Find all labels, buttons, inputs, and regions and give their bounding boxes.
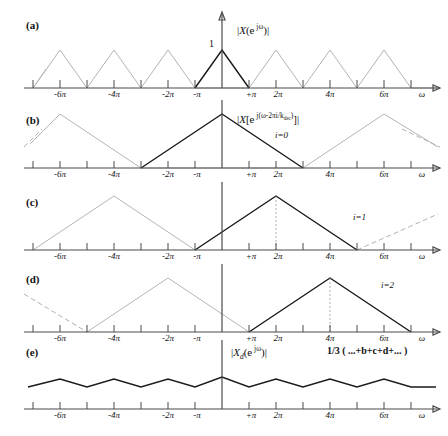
tick-label-a-6: 4π — [325, 89, 334, 99]
tick-label-b-1: -4π — [108, 169, 120, 179]
tick-label-c-2: -2π — [162, 251, 174, 261]
tick-label-e-0: -6π — [54, 410, 66, 420]
axis-symbol-c: ω — [419, 251, 425, 261]
panel-d: (d) i=2 -6π -4π -2π -π +π 2π 4π 6 — [0, 264, 448, 346]
tick-label-d-3: -π — [193, 333, 201, 343]
tick-label-b-4: +π — [246, 169, 257, 179]
tick-label-c-6: 4π — [325, 251, 334, 261]
panel-e-ripple-curve — [28, 377, 436, 387]
panel-a-ghost-edge-left — [33, 69, 46, 88]
tick-label-e-4: +π — [246, 410, 257, 420]
tick-label-a-4: +π — [246, 89, 257, 99]
tick-label-e-2: -2π — [162, 410, 174, 420]
panel-e: (e) |Xd(e jω)| 1/3 ( ...+b+c+d+... ) -6π… — [0, 346, 448, 436]
tick-label-d-1: -4π — [108, 333, 120, 343]
tick-label-e-3: -π — [193, 410, 201, 420]
axis-symbol-e: ω — [419, 410, 425, 420]
tick-label-d-4: +π — [246, 333, 257, 343]
tick-label-a-3: -π — [193, 89, 201, 99]
tick-label-e-1: -4π — [108, 410, 120, 420]
tick-label-d-2: -2π — [162, 333, 174, 343]
tick-label-e-5: 2π — [273, 410, 282, 420]
panel-b: (b) |X[e j(ω-2πi/kdec)]| i=0 -6π -4 — [0, 100, 448, 182]
panel-a-plot — [0, 0, 448, 100]
tick-label-a-2: -2π — [162, 89, 174, 99]
tick-label-e-6: 4π — [325, 410, 334, 420]
tick-label-a-0: -6π — [54, 89, 66, 99]
tick-label-d-7: 6π — [379, 333, 388, 343]
tick-label-c-4: +π — [246, 251, 257, 261]
tick-label-d-5: 2π — [273, 333, 282, 343]
tick-label-d-0: -6π — [54, 333, 66, 343]
panel-c: (c) i=1 -6π -4π -2π -π +π 2π 4π 6 — [0, 182, 448, 264]
tick-label-c-7: 6π — [379, 251, 388, 261]
tick-label-c-5: 2π — [273, 251, 282, 261]
tick-label-d-6: 4π — [325, 333, 334, 343]
tick-label-a-7: 6π — [379, 89, 388, 99]
panel-b-dash-right — [402, 129, 440, 147]
axis-symbol-a: ω — [419, 89, 425, 99]
tick-label-c-0: -6π — [54, 251, 66, 261]
tick-label-b-3: -π — [193, 169, 201, 179]
axis-symbol-b: ω — [419, 169, 425, 179]
tick-label-e-7: 6π — [379, 410, 388, 420]
tick-label-b-7: 6π — [379, 169, 388, 179]
tick-label-b-0: -6π — [54, 169, 66, 179]
panel-a: (a) |X(e jω)| 1 -6π — [0, 0, 448, 100]
panel-d-ghost-curve — [87, 278, 249, 332]
tick-label-b-2: -2π — [162, 169, 174, 179]
tick-label-b-6: 4π — [325, 169, 334, 179]
tick-label-c-1: -4π — [108, 251, 120, 261]
axis-symbol-d: ω — [419, 333, 425, 343]
panel-c-dash-right — [357, 214, 438, 250]
tick-label-a-5: 2π — [273, 89, 282, 99]
panel-b-dash-left — [24, 129, 42, 147]
tick-label-a-1: -4π — [108, 89, 120, 99]
tick-label-c-3: -π — [193, 251, 201, 261]
panel-e-plot — [0, 346, 448, 436]
panel-c-ghost-curve — [33, 196, 195, 250]
tick-label-b-5: 2π — [273, 169, 282, 179]
